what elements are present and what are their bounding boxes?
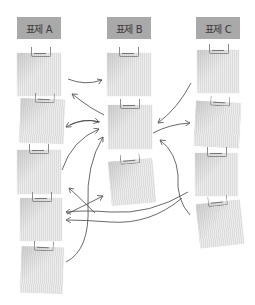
connection-arrows bbox=[0, 0, 255, 305]
curved-arrow-icon bbox=[153, 123, 190, 133]
curved-arrow-icon bbox=[62, 129, 99, 170]
curved-arrow-icon bbox=[68, 79, 102, 83]
curved-arrow-icon bbox=[70, 121, 99, 125]
curved-arrow-icon bbox=[69, 188, 95, 213]
curved-arrow-icon bbox=[66, 137, 103, 262]
curved-arrow-icon bbox=[158, 83, 191, 123]
curved-arrow-icon bbox=[72, 94, 104, 115]
